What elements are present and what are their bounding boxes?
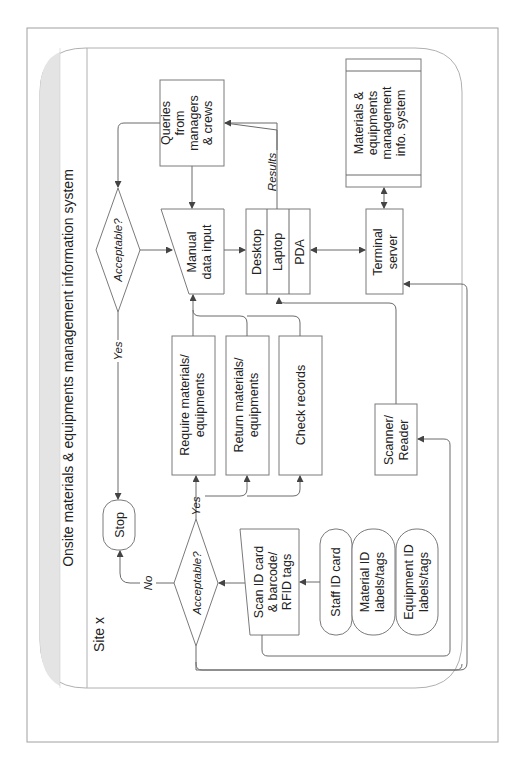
devices-node: Desktop Laptop PDA — [246, 209, 310, 294]
svg-text:Terminal: Terminal — [371, 228, 385, 275]
check-records-node: Check records — [279, 336, 322, 475]
svg-text:Staff ID card: Staff ID card — [329, 547, 343, 616]
queries-node: Queries from managers & crews — [159, 80, 224, 166]
svg-text:managers: managers — [187, 95, 201, 151]
svg-text:& barcode/: & barcode/ — [266, 551, 280, 612]
return-node: Return materials/ equipments — [226, 336, 269, 475]
device-desktop: Desktop — [250, 229, 264, 275]
svg-text:info. system: info. system — [394, 90, 408, 157]
svg-text:Acceptable?: Acceptable? — [191, 551, 203, 616]
svg-text:Require materials/: Require materials/ — [178, 354, 192, 456]
diagram-title: Onsite materials & equipments management… — [60, 169, 76, 567]
svg-text:Material ID: Material ID — [358, 552, 372, 612]
scanner-node: Scanner/ Reader — [375, 404, 417, 475]
svg-text:labels/tags: labels/tags — [373, 552, 387, 612]
terminal-server-node: Terminal server — [366, 209, 403, 294]
svg-text:data input: data input — [200, 224, 214, 279]
svg-text:Equipment ID: Equipment ID — [402, 544, 416, 620]
svg-text:Materials &: Materials & — [352, 91, 366, 154]
device-pda: PDA — [293, 238, 307, 264]
svg-text:labels/tags: labels/tags — [417, 552, 431, 612]
svg-text:equipments: equipments — [193, 373, 207, 438]
edge-label-yes-bottom: Yes — [190, 496, 202, 515]
site-label: Site x — [91, 617, 107, 652]
stop-node: Stop — [103, 500, 135, 550]
svg-text:Return materials/: Return materials/ — [232, 357, 246, 453]
flowchart-diagram: Onsite materials & equipments management… — [0, 0, 520, 759]
edge-label-results: Results — [266, 153, 278, 192]
svg-text:equipments: equipments — [366, 91, 380, 156]
info-system-node: Materials & equipments management info. … — [346, 59, 421, 187]
svg-text:Scan ID card: Scan ID card — [252, 546, 266, 618]
svg-text:Scanner/: Scanner/ — [382, 414, 396, 465]
svg-text:from: from — [173, 111, 187, 136]
title-band — [40, 52, 60, 686]
material-id-node: Material ID labels/tags — [352, 529, 395, 635]
svg-text:Manual: Manual — [185, 232, 199, 273]
svg-text:Queries: Queries — [159, 101, 173, 145]
svg-text:& crews: & crews — [201, 101, 215, 145]
edge-label-yes-top: Yes — [112, 341, 124, 360]
edge-label-no: No — [142, 575, 154, 590]
scan-node: Scan ID card & barcode/ RFID tags — [240, 529, 299, 635]
equipment-id-node: Equipment ID labels/tags — [396, 529, 438, 635]
svg-text:server: server — [386, 235, 400, 270]
svg-text:Reader: Reader — [397, 420, 411, 461]
svg-text:Stop: Stop — [113, 512, 127, 538]
svg-text:equipments: equipments — [247, 373, 261, 438]
device-laptop: Laptop — [271, 233, 285, 271]
require-node: Require materials/ equipments — [172, 336, 215, 475]
svg-text:RFID tags: RFID tags — [280, 554, 294, 610]
staff-id-card-node: Staff ID card — [320, 529, 352, 635]
svg-text:Check records: Check records — [294, 365, 308, 446]
svg-text:management: management — [380, 86, 394, 159]
svg-text:Acceptable?: Acceptable? — [112, 218, 124, 283]
